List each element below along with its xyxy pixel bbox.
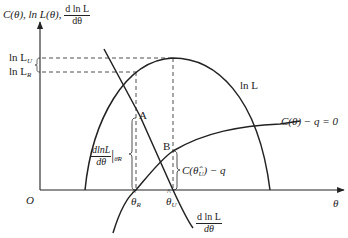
ln-l-curve: [85, 58, 270, 190]
y-axis-label-fraction: d ln L dθ: [64, 4, 90, 26]
ln-lr-label: ln LR: [9, 66, 31, 79]
theta-r-label: θR: [131, 196, 141, 209]
point-b-label: B: [163, 141, 170, 152]
theta-u-label: θU: [166, 196, 176, 209]
x-axis-label: θ: [333, 198, 338, 209]
ln-l-curve-label: ln L: [240, 80, 258, 91]
y-axis-frac-num: d ln L: [64, 4, 90, 16]
gap-brace: [173, 151, 180, 190]
point-a-label: A: [139, 110, 147, 121]
ln-lu-label: ln LU: [9, 52, 32, 65]
slope-brace: [129, 118, 136, 190]
gap-brace-label: C(θ̂U) − q: [182, 165, 226, 178]
dlnl-dtheta-curve: [104, 49, 193, 228]
constraint-label: C(θ) − q = 0: [281, 116, 338, 127]
level-brace: [35, 58, 40, 72]
slope-brace-label: dlnL dθ |θ̂R: [91, 145, 122, 167]
derivative-label: d ln L dθ: [196, 212, 222, 234]
y-axis-label: C(θ), ln L(θ), d ln L dθ: [3, 4, 90, 26]
y-axis-label-text: C(θ), ln L(θ),: [3, 8, 64, 20]
y-axis-frac-den: dθ: [72, 16, 82, 27]
origin-label: O: [26, 195, 34, 206]
